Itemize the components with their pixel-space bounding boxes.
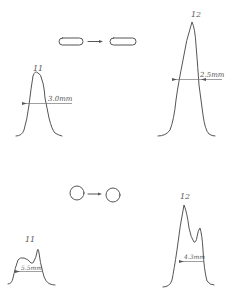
capsule-shape-right (110, 38, 136, 45)
width-arrow-icon (179, 260, 184, 263)
profile-top-right: 12 2.5mm (158, 10, 225, 136)
width-annotation: 2.5mm (199, 71, 225, 79)
width-arrow-icon (172, 78, 177, 81)
circle-shape-right (106, 188, 120, 202)
arrowhead-icon (99, 40, 103, 43)
width-annotation: 3.0mm (48, 95, 73, 103)
profile-label: 11 (25, 235, 35, 244)
top-shape-transition (59, 38, 136, 45)
intensity-curve (158, 22, 215, 136)
profile-label: 11 (33, 64, 43, 73)
width-annotation: 5.5mm (21, 264, 42, 271)
width-arrow-icon (22, 102, 27, 105)
width-arrow-icon (15, 270, 20, 273)
profile-label: 12 (180, 192, 190, 201)
width-annotation: 4.3mm (183, 253, 205, 260)
arrowhead-icon (98, 193, 102, 196)
capsule-shape-left (59, 38, 83, 45)
beam-profile-diagram: 11 3.0mm 12 2.5mm 11 5.5mm 12 4.3mm (0, 0, 235, 297)
circle-shape-left (70, 186, 84, 200)
profile-label: 12 (191, 10, 201, 19)
profile-bottom-left: 11 5.5mm (8, 235, 55, 285)
profile-top-left: 11 3.0mm (16, 64, 73, 136)
intensity-curve (163, 205, 214, 287)
bottom-shape-transition (70, 186, 120, 202)
profile-bottom-right: 12 4.3mm (163, 192, 214, 287)
